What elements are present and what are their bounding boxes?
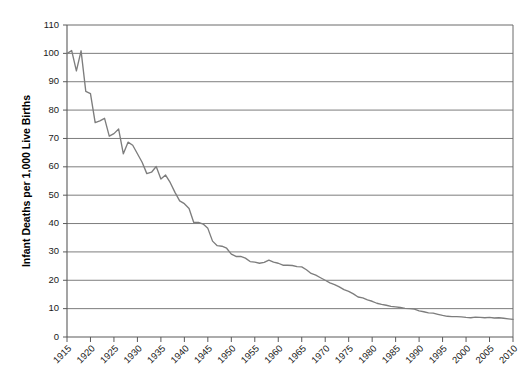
y-tick-label: 70 bbox=[48, 132, 59, 143]
plot-background bbox=[67, 25, 513, 337]
y-tick-label: 0 bbox=[54, 331, 59, 342]
y-tick-label: 60 bbox=[48, 160, 59, 171]
x-tick-label: 1920 bbox=[74, 343, 97, 366]
x-tick-label: 1960 bbox=[262, 343, 285, 366]
y-tick-label: 10 bbox=[48, 302, 59, 313]
x-tick-label: 1970 bbox=[309, 343, 332, 366]
y-tick-label: 20 bbox=[48, 274, 59, 285]
x-tick-label: 1950 bbox=[215, 343, 238, 366]
y-tick-marks bbox=[63, 25, 67, 337]
x-tick-label: 1965 bbox=[285, 343, 308, 366]
y-tick-label: 50 bbox=[48, 189, 59, 200]
x-tick-label: 1940 bbox=[168, 343, 191, 366]
y-tick-label: 80 bbox=[48, 104, 59, 115]
y-tick-label: 40 bbox=[48, 217, 59, 228]
x-tick-label: 1935 bbox=[145, 343, 168, 366]
x-tick-labels: 1915192019251930193519401945195019551960… bbox=[51, 343, 520, 366]
x-tick-label: 1955 bbox=[238, 343, 261, 366]
infant-mortality-line-chart: 0102030405060708090100110 19151920192519… bbox=[0, 0, 529, 392]
x-tick-label: 1980 bbox=[356, 343, 379, 366]
x-tick-label: 1995 bbox=[426, 343, 449, 366]
y-axis-title: Infant Deaths per 1,000 Live Births bbox=[20, 95, 32, 267]
x-tick-label: 1990 bbox=[403, 343, 426, 366]
y-tick-labels: 0102030405060708090100110 bbox=[43, 19, 59, 342]
y-axis-title-group: Infant Deaths per 1,000 Live Births bbox=[20, 95, 32, 267]
y-tick-label: 100 bbox=[43, 47, 59, 58]
y-tick-label: 90 bbox=[48, 75, 59, 86]
chart-canvas: 0102030405060708090100110 19151920192519… bbox=[0, 0, 529, 392]
y-tick-label: 110 bbox=[44, 19, 59, 30]
x-tick-label: 2000 bbox=[450, 343, 473, 366]
y-tick-label: 30 bbox=[48, 245, 59, 256]
x-tick-marks bbox=[67, 337, 513, 342]
x-tick-label: 1975 bbox=[332, 343, 355, 366]
x-tick-label: 1925 bbox=[98, 343, 121, 366]
x-tick-label: 2005 bbox=[473, 343, 496, 366]
x-tick-label: 1915 bbox=[51, 343, 74, 366]
x-tick-label: 1930 bbox=[121, 343, 144, 366]
x-tick-label: 1985 bbox=[379, 343, 402, 366]
x-tick-label: 2010 bbox=[497, 343, 520, 366]
x-tick-label: 1945 bbox=[192, 343, 215, 366]
